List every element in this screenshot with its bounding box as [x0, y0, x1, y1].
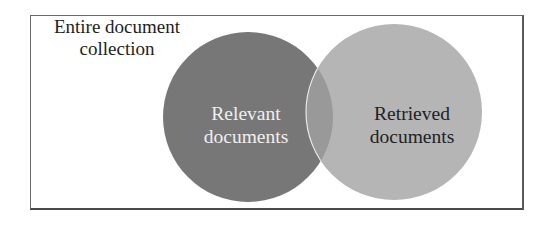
relevant-documents-label: Relevant documents	[186, 102, 306, 148]
collection-label-line2: collection	[37, 38, 197, 60]
collection-label-line1: Entire document	[37, 16, 197, 38]
retrieved-documents-label: Retrieved documents	[352, 102, 472, 148]
retrieved-label-line1: Retrieved	[352, 102, 472, 125]
retrieved-label-line2: documents	[352, 125, 472, 148]
relevant-label-line1: Relevant	[186, 102, 306, 125]
entire-document-collection-label: Entire document collection	[37, 16, 197, 60]
relevant-label-line2: documents	[186, 125, 306, 148]
